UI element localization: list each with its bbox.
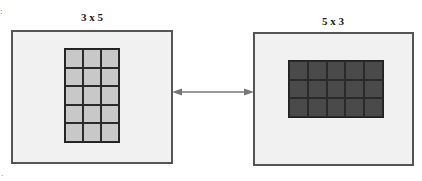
matrix-cell [289,80,308,99]
matrix-cell [345,61,364,80]
matrix-cell [65,86,83,105]
matrix-cell [83,123,101,142]
matrix-cell [308,61,327,80]
double-arrow-icon [172,86,254,98]
matrix-cell [101,123,119,142]
matrix-cell [364,98,383,117]
matrix-cell [345,80,364,99]
matrix-cell [65,68,83,87]
matrix-cell [101,49,119,68]
left-matrix-label: 3 x 5 [62,11,122,23]
matrix-cell [327,98,346,117]
right-matrix-grid [288,60,384,118]
matrix-cell [83,49,101,68]
right-matrix-panel [253,32,414,166]
matrix-cell [101,68,119,87]
right-matrix-label: 5 x 3 [303,15,363,27]
matrix-cell [83,105,101,124]
matrix-cell [327,80,346,99]
matrix-cell [364,80,383,99]
left-matrix-panel [11,30,173,164]
matrix-cell [345,98,364,117]
matrix-cell [65,49,83,68]
matrix-cell [65,123,83,142]
matrix-cell [364,61,383,80]
matrix-cell [65,105,83,124]
matrix-cell [83,68,101,87]
left-matrix-grid [64,48,120,143]
matrix-cell [101,86,119,105]
matrix-cell [308,80,327,99]
corner-mark-bottom: . [1,168,3,178]
matrix-cell [289,61,308,80]
corner-mark-top: : [0,6,3,16]
matrix-cell [327,61,346,80]
matrix-cell [83,86,101,105]
matrix-cell [308,98,327,117]
matrix-cell [289,98,308,117]
matrix-cell [101,105,119,124]
